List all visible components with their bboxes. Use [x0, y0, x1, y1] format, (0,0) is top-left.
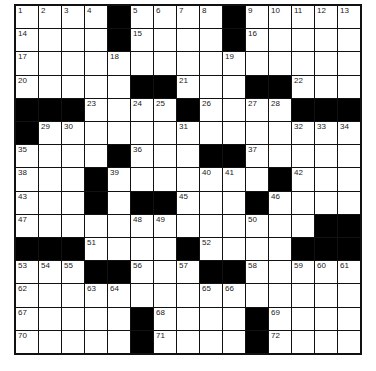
grid-cell[interactable]: 13: [338, 6, 360, 28]
grid-cell[interactable]: 41: [223, 168, 245, 190]
grid-cell[interactable]: [246, 238, 268, 260]
grid-cell[interactable]: [269, 284, 291, 306]
grid-cell[interactable]: 28: [269, 99, 291, 121]
grid-cell[interactable]: [85, 122, 107, 144]
grid-cell[interactable]: [131, 284, 153, 306]
grid-cell[interactable]: [223, 76, 245, 98]
grid-cell[interactable]: [200, 122, 222, 144]
grid-cell[interactable]: [200, 308, 222, 330]
grid-cell[interactable]: [154, 29, 176, 51]
grid-cell[interactable]: 69: [269, 308, 291, 330]
grid-cell[interactable]: [292, 145, 314, 167]
grid-cell[interactable]: [315, 168, 337, 190]
grid-cell[interactable]: [154, 168, 176, 190]
grid-cell[interactable]: [338, 145, 360, 167]
grid-cell[interactable]: 22: [292, 76, 314, 98]
grid-cell[interactable]: [177, 215, 199, 237]
grid-cell[interactable]: 38: [16, 168, 38, 190]
grid-cell[interactable]: 30: [62, 122, 84, 144]
grid-cell[interactable]: 67: [16, 308, 38, 330]
grid-cell[interactable]: [85, 29, 107, 51]
grid-cell[interactable]: 19: [223, 52, 245, 74]
grid-cell[interactable]: [62, 76, 84, 98]
grid-cell[interactable]: [223, 192, 245, 214]
grid-cell[interactable]: 20: [16, 76, 38, 98]
grid-cell[interactable]: [177, 284, 199, 306]
grid-cell[interactable]: [154, 238, 176, 260]
grid-cell[interactable]: 61: [338, 261, 360, 283]
grid-cell[interactable]: 46: [269, 192, 291, 214]
grid-cell[interactable]: [62, 52, 84, 74]
grid-cell[interactable]: 52: [200, 238, 222, 260]
grid-cell[interactable]: [62, 168, 84, 190]
grid-cell[interactable]: 33: [315, 122, 337, 144]
grid-cell[interactable]: 64: [108, 284, 130, 306]
grid-cell[interactable]: [223, 308, 245, 330]
grid-cell[interactable]: [85, 331, 107, 353]
grid-cell[interactable]: 54: [39, 261, 61, 283]
grid-cell[interactable]: 21: [177, 76, 199, 98]
grid-cell[interactable]: [131, 52, 153, 74]
grid-cell[interactable]: 11: [292, 6, 314, 28]
grid-cell[interactable]: [292, 29, 314, 51]
grid-cell[interactable]: 32: [292, 122, 314, 144]
grid-cell[interactable]: [292, 308, 314, 330]
grid-cell[interactable]: [200, 331, 222, 353]
grid-cell[interactable]: [315, 76, 337, 98]
grid-cell[interactable]: 34: [338, 122, 360, 144]
grid-cell[interactable]: [85, 308, 107, 330]
grid-cell[interactable]: 6: [154, 6, 176, 28]
grid-cell[interactable]: 50: [246, 215, 268, 237]
grid-cell[interactable]: [200, 29, 222, 51]
grid-cell[interactable]: [154, 284, 176, 306]
grid-cell[interactable]: [62, 215, 84, 237]
grid-cell[interactable]: 39: [108, 168, 130, 190]
grid-cell[interactable]: 63: [85, 284, 107, 306]
grid-cell[interactable]: [62, 29, 84, 51]
grid-cell[interactable]: [223, 215, 245, 237]
grid-cell[interactable]: 53: [16, 261, 38, 283]
grid-cell[interactable]: [246, 52, 268, 74]
grid-cell[interactable]: [154, 122, 176, 144]
grid-cell[interactable]: 57: [177, 261, 199, 283]
grid-cell[interactable]: 48: [131, 215, 153, 237]
grid-cell[interactable]: 70: [16, 331, 38, 353]
grid-cell[interactable]: [39, 284, 61, 306]
grid-cell[interactable]: [246, 168, 268, 190]
grid-cell[interactable]: 29: [39, 122, 61, 144]
grid-cell[interactable]: [269, 29, 291, 51]
grid-cell[interactable]: 37: [246, 145, 268, 167]
grid-cell[interactable]: 5: [131, 6, 153, 28]
grid-cell[interactable]: [223, 331, 245, 353]
grid-cell[interactable]: [85, 145, 107, 167]
grid-cell[interactable]: [62, 192, 84, 214]
grid-cell[interactable]: [269, 238, 291, 260]
grid-cell[interactable]: 56: [131, 261, 153, 283]
grid-cell[interactable]: [108, 238, 130, 260]
grid-cell[interactable]: [108, 308, 130, 330]
grid-cell[interactable]: [338, 168, 360, 190]
grid-cell[interactable]: [177, 308, 199, 330]
grid-cell[interactable]: [39, 145, 61, 167]
grid-cell[interactable]: [177, 145, 199, 167]
grid-cell[interactable]: [177, 29, 199, 51]
grid-cell[interactable]: [131, 122, 153, 144]
grid-cell[interactable]: [85, 76, 107, 98]
grid-cell[interactable]: [200, 52, 222, 74]
grid-cell[interactable]: 59: [292, 261, 314, 283]
grid-cell[interactable]: 1: [16, 6, 38, 28]
grid-cell[interactable]: 31: [177, 122, 199, 144]
grid-cell[interactable]: 55: [62, 261, 84, 283]
grid-cell[interactable]: [269, 215, 291, 237]
grid-cell[interactable]: 51: [85, 238, 107, 260]
grid-cell[interactable]: [39, 29, 61, 51]
grid-cell[interactable]: 45: [177, 192, 199, 214]
grid-cell[interactable]: 4: [85, 6, 107, 28]
grid-cell[interactable]: [62, 308, 84, 330]
grid-cell[interactable]: [108, 192, 130, 214]
grid-cell[interactable]: [246, 284, 268, 306]
grid-cell[interactable]: [223, 238, 245, 260]
grid-cell[interactable]: [39, 215, 61, 237]
grid-cell[interactable]: [292, 284, 314, 306]
grid-cell[interactable]: [154, 261, 176, 283]
